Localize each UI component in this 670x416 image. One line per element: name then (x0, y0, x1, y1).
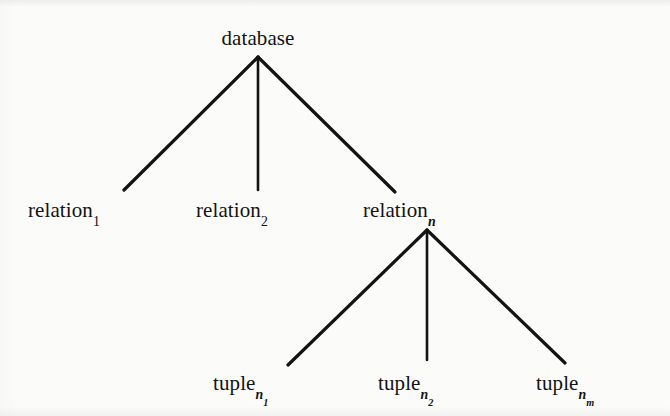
node-tuple-n1-subscript: n1 (256, 387, 269, 402)
tree-edges (0, 0, 670, 416)
edge-database-relation-n (258, 57, 395, 192)
node-tuple-n2-subscript: n2 (421, 387, 434, 402)
edge-relation-n-tuple-nm (427, 230, 565, 363)
node-tuple-n1: tuplen1 (213, 373, 268, 396)
node-tuple-n1-subsubscript: 1 (263, 397, 268, 408)
node-relation-2-label: relation (196, 198, 261, 222)
node-relation-n-subscript: n (428, 214, 436, 229)
node-relation-2: relation2 (196, 200, 268, 221)
node-tuple-nm-subscript: nm (579, 387, 595, 402)
node-tuple-n1-label: tuple (213, 371, 256, 395)
edge-relation-n-tuple-n1 (288, 230, 427, 365)
node-tuple-nm: tuplenm (536, 373, 594, 396)
node-relation-1: relation1 (28, 200, 100, 221)
node-tuple-n2: tuplen2 (378, 373, 433, 396)
node-tuple-nm-subsubscript: m (586, 397, 594, 408)
node-relation-n-label: relation (363, 198, 428, 222)
figure-canvas: database relation1 relation2 relationn t… (0, 0, 670, 416)
node-relation-1-label: relation (28, 198, 93, 222)
node-tuple-nm-label: tuple (536, 371, 579, 395)
node-tuple-n2-label: tuple (378, 371, 421, 395)
edge-database-relation-1 (124, 57, 258, 190)
node-relation-1-subscript: 1 (93, 214, 100, 229)
node-relation-2-subscript: 2 (261, 214, 268, 229)
node-tuple-n2-subsubscript: 2 (428, 397, 433, 408)
node-database: database (221, 28, 294, 49)
node-relation-n: relationn (363, 200, 436, 221)
node-database-label: database (221, 26, 294, 50)
